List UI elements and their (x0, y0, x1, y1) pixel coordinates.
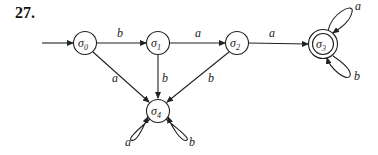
loop-label-s4-b: b (189, 135, 195, 149)
edge-label-s1-s4: b (162, 71, 168, 85)
loop-label-s4-a: a (125, 135, 131, 149)
edge-label-s2-s4: b (208, 71, 214, 85)
edge-label-s0-s1: b (117, 26, 123, 40)
loop-label-s3-a: a (355, 0, 361, 13)
loop-label-s3-b: b (354, 69, 360, 83)
loop-s3-b (327, 56, 350, 77)
edge-label-s2-s3: a (269, 26, 275, 40)
finite-state-machine-diagram: σ0 σ1 σ2 σ3 σ4 b a a a b b a b a b (0, 0, 378, 155)
loop-s3-a (328, 8, 352, 33)
edge-s2-s3 (249, 43, 308, 44)
loop-s4-a (131, 117, 150, 140)
edge-label-s0-s4: a (112, 71, 118, 85)
edge-s2-s4 (167, 52, 229, 102)
edge-s0-s4 (93, 52, 149, 102)
edge-label-s1-s2: a (195, 26, 201, 40)
loop-s4-b (166, 117, 187, 140)
